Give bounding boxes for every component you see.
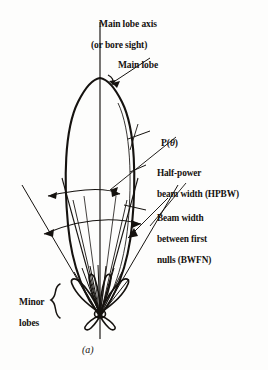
label-pattern-function: P(θ): [152, 127, 178, 159]
figure-caption: (a): [82, 344, 93, 355]
label-main-lobe-axis-line2: (or bore sight): [90, 40, 157, 51]
figure-page: Main lobe axis (or bore sight) Main lobe…: [0, 0, 268, 370]
label-beam-width-first-nulls: Beam width between first nulls (BWFN): [148, 203, 211, 276]
label-bwfn-line1: Beam width: [157, 213, 204, 223]
label-p-theta-prefix: P(: [161, 138, 170, 148]
label-main-lobe-axis-line1: Main lobe axis: [99, 19, 157, 29]
label-hpbw-line2: beam width (HPBW): [157, 189, 239, 199]
label-p-theta-suffix: ): [175, 138, 178, 148]
label-minor-lobes-line2: lobes: [19, 318, 39, 328]
label-minor-lobes: Minor lobes: [10, 286, 44, 339]
label-minor-lobes-line1: Minor: [19, 297, 44, 307]
label-bwfn-line2: between first: [157, 234, 207, 244]
label-hpbw-line1: Half-power: [157, 168, 201, 178]
label-main-lobe: Main lobe: [118, 60, 158, 71]
label-bwfn-line3: nulls (BWFN): [157, 255, 211, 265]
minor-lobes-brace: [51, 284, 60, 318]
